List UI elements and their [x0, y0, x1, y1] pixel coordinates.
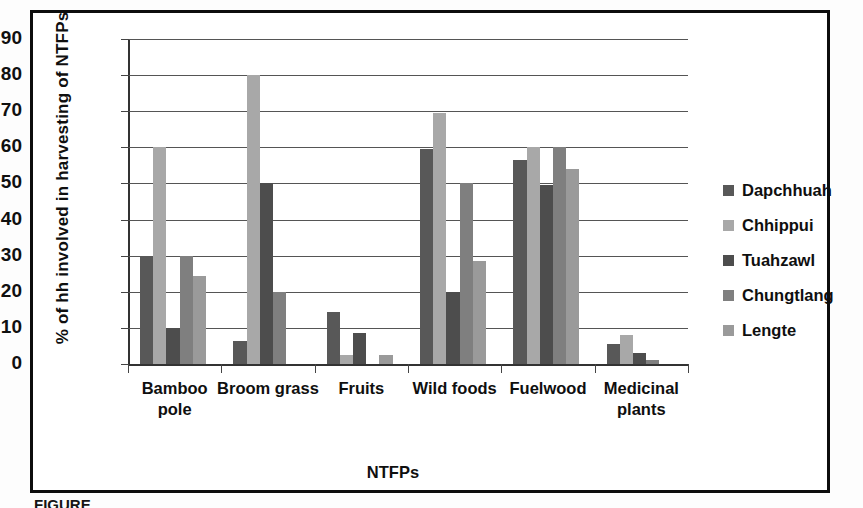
bar-chungtlang-bamboo-pole [180, 256, 193, 364]
y-tick-label: 60 [0, 135, 22, 157]
y-tick-mark [121, 147, 129, 148]
bar-tuahzawl-medicinal-plants [633, 353, 646, 364]
y-axis-title: % of hh involved in harvesting of NTFPs [53, 0, 73, 368]
legend-label: Tuahzawl [742, 251, 815, 270]
y-tick-label: 70 [0, 99, 22, 121]
bar-chungtlang-wild-foods [460, 183, 473, 364]
x-axis-title: NTFPs [33, 463, 753, 482]
bar-chhippui-medicinal-plants [620, 335, 633, 364]
legend-swatch-icon [723, 290, 734, 301]
bar-group [140, 39, 206, 364]
legend-swatch-icon [723, 220, 734, 231]
legend-item-tuahzawl[interactable]: Tuahzawl [723, 243, 834, 278]
bar-dapchhuah-medicinal-plants [607, 344, 620, 364]
legend-label: Dapchhuah [742, 181, 832, 200]
bar-dapchhuah-bamboo-pole [140, 256, 153, 364]
y-tick-label: 10 [0, 316, 22, 338]
x-category-label: Medicinalplants [585, 378, 698, 419]
gridline [128, 39, 688, 40]
legend-swatch-icon [723, 185, 734, 196]
x-category-label-line: Medicinal [585, 378, 698, 399]
gridline [128, 328, 688, 329]
x-tick-mark [595, 364, 596, 373]
bar-lengte-bamboo-pole [193, 276, 206, 364]
y-axis-line [128, 39, 130, 364]
bar-group [327, 39, 393, 364]
bar-dapchhuah-fuelwood [513, 160, 526, 364]
y-tick-mark [121, 183, 129, 184]
legend-item-chungtlang[interactable]: Chungtlang [723, 278, 834, 313]
bar-tuahzawl-bamboo-pole [166, 328, 179, 364]
chart-legend: DapchhuahChhippuiTuahzawlChungtlangLengt… [723, 173, 834, 348]
gridline [128, 75, 688, 76]
legend-label: Chhippui [742, 216, 813, 235]
x-category-label-line: pole [118, 399, 231, 420]
bar-dapchhuah-wild-foods [420, 149, 433, 364]
x-tick-mark [501, 364, 502, 373]
legend-label: Chungtlang [742, 286, 834, 305]
gridline [128, 256, 688, 257]
gridline [128, 147, 688, 148]
y-tick-mark [121, 39, 129, 40]
y-tick-mark [121, 256, 129, 257]
gridline [128, 292, 688, 293]
bar-tuahzawl-wild-foods [446, 292, 459, 364]
legend-item-chhippui[interactable]: Chhippui [723, 208, 834, 243]
bar-chhippui-bamboo-pole [153, 147, 166, 364]
y-tick-label: 40 [0, 208, 22, 230]
y-tick-mark [121, 292, 129, 293]
y-tick-mark [121, 75, 129, 76]
bar-tuahzawl-broom-grass [260, 183, 273, 364]
y-tick-label: 20 [0, 280, 22, 302]
plot-area: 9080706050403020100 [128, 39, 688, 364]
x-tick-mark [688, 364, 689, 373]
bar-group [420, 39, 486, 364]
bar-chhippui-fruits [340, 355, 353, 364]
bar-chhippui-broom-grass [247, 75, 260, 364]
bar-chhippui-wild-foods [433, 113, 446, 364]
figure-frame: % of hh involved in harvesting of NTFPs … [30, 10, 830, 493]
y-tick-mark [121, 220, 129, 221]
bar-chhippui-fuelwood [527, 147, 540, 364]
bar-tuahzawl-fuelwood [540, 185, 553, 364]
y-tick-label: 30 [0, 244, 22, 266]
bar-lengte-wild-foods [473, 261, 486, 364]
figure-page: % of hh involved in harvesting of NTFPs … [0, 0, 863, 508]
legend-item-dapchhuah[interactable]: Dapchhuah [723, 173, 834, 208]
bar-lengte-fuelwood [566, 169, 579, 364]
x-tick-mark [315, 364, 316, 373]
gridline [128, 220, 688, 221]
bar-group [607, 39, 673, 364]
y-tick-label: 80 [0, 63, 22, 85]
bar-chungtlang-fuelwood [553, 147, 566, 364]
y-tick-label: 90 [0, 27, 22, 49]
y-tick-label: 0 [0, 352, 22, 374]
gridline [128, 183, 688, 184]
gridline [128, 111, 688, 112]
legend-item-lengte[interactable]: Lengte [723, 313, 834, 348]
legend-label: Lengte [742, 321, 796, 340]
bar-chungtlang-broom-grass [273, 292, 286, 364]
x-tick-mark [221, 364, 222, 373]
bar-group [233, 39, 299, 364]
x-tick-mark [408, 364, 409, 373]
y-tick-label: 50 [0, 171, 22, 193]
x-tick-mark [128, 364, 129, 373]
y-tick-mark [121, 111, 129, 112]
bar-lengte-fruits [379, 355, 392, 364]
bar-dapchhuah-fruits [327, 312, 340, 364]
bar-dapchhuah-broom-grass [233, 341, 246, 364]
bar-group [513, 39, 579, 364]
bar-tuahzawl-fruits [353, 333, 366, 364]
bar-chungtlang-medicinal-plants [646, 360, 659, 364]
y-tick-mark [121, 328, 129, 329]
x-category-label-line: plants [585, 399, 698, 420]
legend-swatch-icon [723, 325, 734, 336]
figure-caption: FIGURE [34, 496, 834, 508]
legend-swatch-icon [723, 255, 734, 266]
